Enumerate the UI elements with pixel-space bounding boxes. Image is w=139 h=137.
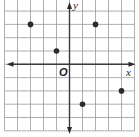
data-point <box>80 101 86 107</box>
y-axis-label: y <box>72 0 78 11</box>
data-point <box>93 22 99 28</box>
data-point <box>119 88 125 94</box>
x-axis-left-arrow <box>7 62 14 67</box>
y-axis-top-arrow <box>67 2 72 9</box>
data-point <box>28 22 34 28</box>
coordinate-plane: x y O <box>0 0 139 137</box>
data-point <box>54 48 60 54</box>
origin-label: O <box>59 66 68 78</box>
x-axis-label: x <box>125 66 131 78</box>
